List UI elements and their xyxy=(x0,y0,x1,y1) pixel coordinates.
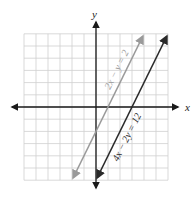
coordinate-graph: x y 2x − y = 2 4x − 2y = 12 xyxy=(0,0,195,197)
axes xyxy=(12,22,178,188)
y-axis-label: y xyxy=(91,8,97,20)
x-axis-label: x xyxy=(184,101,190,113)
